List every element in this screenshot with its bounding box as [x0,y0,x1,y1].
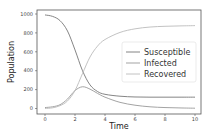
y-tick-label: 200 [23,86,33,92]
y-tick-label: 800 [23,30,33,36]
x-tick-label: 4 [103,116,106,122]
y-tick-label: 1000 [20,11,33,17]
y-axis-label: Population [7,41,16,83]
y-tick-label: 600 [23,49,33,55]
x-axis-ticks: 0246810 [43,114,198,122]
legend-label: Susceptible [144,48,190,57]
legend: SusceptibleInfectedRecovered [122,42,196,82]
legend-label: Recovered [144,70,186,79]
y-tick-label: 0 [30,105,33,111]
x-tick-label: 2 [73,116,76,122]
x-tick-label: 8 [163,116,166,122]
x-tick-label: 6 [133,116,136,122]
x-tick-label: 10 [192,116,198,122]
y-axis-ticks: 02004006008001000 [20,11,37,112]
x-tick-label: 0 [43,116,46,122]
legend-label: Infected [144,59,177,68]
x-axis-label: Time [108,122,129,131]
chart: 02004006008001000 0246810 Time Populatio… [0,0,214,137]
y-tick-label: 400 [23,67,33,73]
